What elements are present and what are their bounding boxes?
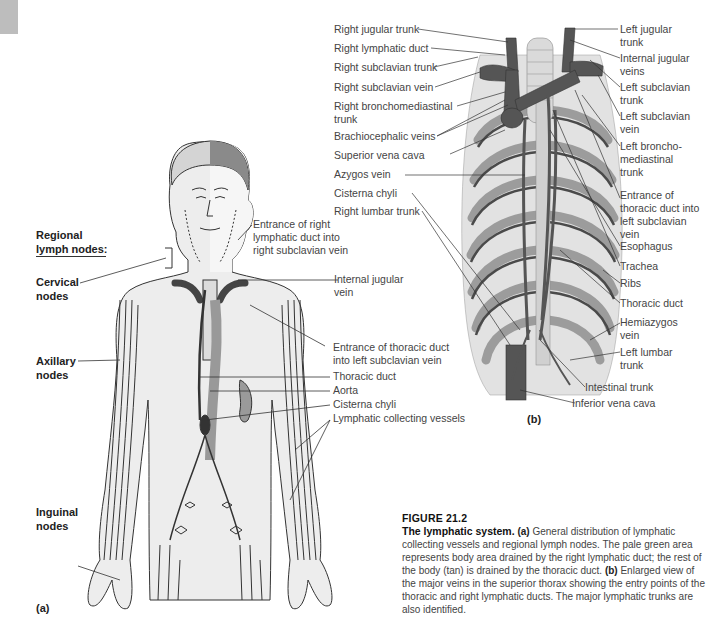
label-inguinal-nodes: Inguinal nodes	[36, 505, 96, 533]
body-illustration	[88, 141, 332, 609]
label-entrance-right-lymphatic-duct: Entrance of right lymphatic duct into ri…	[253, 218, 363, 257]
label-brachiocephalic-veins: Brachiocephalic veins	[334, 130, 436, 143]
figure-caption: FIGURE 21.2 The lymphatic system. (a) Ge…	[402, 512, 707, 616]
label-right-jugular-trunk: Right jugular trunk	[334, 23, 419, 36]
label-left-jugular-trunk: Left jugular trunk	[620, 23, 690, 49]
label-superior-vena-cava: Superior vena cava	[334, 149, 424, 162]
label-ribs: Ribs	[620, 277, 641, 290]
panel-a-letter: (a)	[36, 602, 49, 614]
label-internal-jugular-veins: Internal jugular veins	[620, 52, 690, 78]
label-intestinal-trunk: Intestinal trunk	[585, 381, 653, 394]
label-trachea: Trachea	[620, 260, 658, 273]
label-cisterna-chyli-a: Cisterna chyli	[333, 398, 396, 411]
label-thoracic-duct-a: Thoracic duct	[333, 370, 396, 383]
heading-divider	[36, 256, 106, 257]
figure-number: FIGURE 21.2	[402, 512, 707, 525]
label-cisterna-chyli-b: Cisterna chyli	[334, 187, 397, 200]
label-cervical-nodes: Cervical nodes	[36, 275, 96, 303]
caption-part-a-marker: (a)	[517, 526, 529, 537]
label-axillary-nodes: Axillary nodes	[36, 354, 96, 382]
label-hemiazygos-vein: Hemiazygos vein	[620, 316, 685, 342]
label-thoracic-duct-b: Thoracic duct	[620, 297, 683, 310]
regional-lymph-nodes-heading: Regional lymph nodes:	[36, 228, 116, 256]
label-right-subclavian-trunk: Right subclavian trunk	[334, 61, 437, 74]
figure-title: The lymphatic system.	[402, 525, 515, 537]
label-entrance-thoracic-duct-b: Entrance of thoracic duct into left subc…	[620, 189, 700, 241]
label-right-lumbar-trunk: Right lumbar trunk	[334, 205, 420, 218]
label-inferior-vena-cava: Inferior vena cava	[572, 397, 655, 410]
caption-part-b-marker: (b)	[605, 565, 618, 576]
label-azygos-vein: Azygos vein	[334, 168, 391, 181]
panel-b-letter: (b)	[527, 413, 541, 425]
label-entrance-thoracic-duct: Entrance of thoracic duct into left subc…	[333, 341, 463, 367]
label-right-bronchomediastinal-trunk: Right bronchomediastinal trunk	[334, 100, 459, 126]
label-internal-jugular-vein: Internal jugular vein	[334, 273, 414, 299]
label-right-subclavian-vein: Right subclavian vein	[334, 81, 433, 94]
label-left-bronchomediastinal-trunk: Left broncho-mediastinal trunk	[620, 140, 682, 179]
label-aorta: Aorta	[333, 384, 358, 397]
label-left-subclavian-trunk: Left subclavian trunk	[620, 81, 695, 107]
label-left-lumbar-trunk: Left lumbar trunk	[620, 346, 685, 372]
label-left-subclavian-vein: Left subclavian vein	[620, 110, 695, 136]
label-right-lymphatic-duct: Right lymphatic duct	[334, 42, 429, 55]
thorax-illustration	[462, 28, 622, 400]
label-lymphatic-collecting-vessels: Lymphatic collecting vessels	[333, 412, 465, 425]
label-esophagus: Esophagus	[620, 240, 673, 253]
